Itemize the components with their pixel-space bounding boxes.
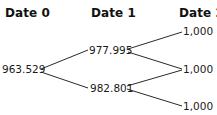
node-date1-up: 977.995 — [89, 44, 132, 56]
branch-1u-down — [128, 52, 182, 69]
branch-0-down — [41, 72, 88, 88]
branch-0-up — [41, 50, 88, 69]
tree-branches — [0, 0, 217, 115]
branch-1d-down — [127, 89, 182, 106]
node-date1-down: 982.801 — [90, 82, 133, 94]
node-date2-ud: 1,000 — [183, 63, 213, 75]
branch-1u-up — [128, 32, 182, 49]
node-date0: 963.529 — [2, 63, 45, 75]
node-date2-uu: 1,000 — [183, 25, 213, 37]
branch-1d-up — [127, 70, 182, 86]
node-date2-dd: 1,000 — [183, 100, 213, 112]
